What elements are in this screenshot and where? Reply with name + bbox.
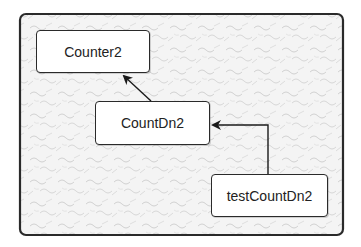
node-label: Counter2 (64, 44, 122, 60)
node-counter2[interactable]: Counter2 (36, 30, 150, 73)
node-label: CountDn2 (121, 115, 184, 131)
node-testcountdn2[interactable]: testCountDn2 (211, 174, 328, 217)
node-countdn2[interactable]: CountDn2 (95, 101, 210, 145)
node-label: testCountDn2 (227, 188, 313, 204)
